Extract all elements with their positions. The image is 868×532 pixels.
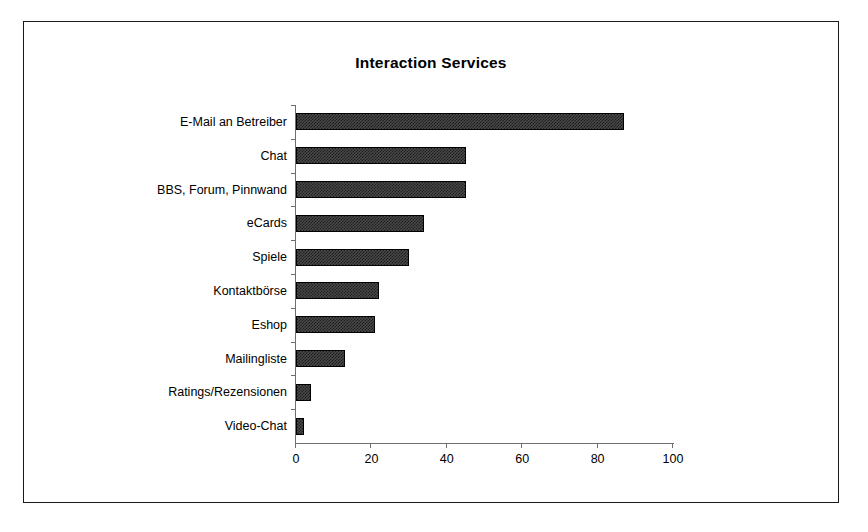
y-axis-tick <box>291 139 296 140</box>
y-axis-tick <box>291 342 296 343</box>
y-axis-label: BBS, Forum, Pinnwand <box>157 184 287 197</box>
x-axis-line <box>295 443 674 444</box>
bar-row: Mailingliste <box>296 342 673 376</box>
x-axis-tick <box>521 443 522 448</box>
y-axis-label: Chat <box>261 150 287 163</box>
y-axis-tick <box>291 308 296 309</box>
x-axis-tick-label: 0 <box>293 452 300 466</box>
bar-row: eCards <box>296 206 673 240</box>
bar-bbs-forum-pinnwand <box>296 181 466 198</box>
bar-row: Spiele <box>296 240 673 274</box>
chart-frame: Interaction Services E-Mail an Betreiber… <box>23 21 839 503</box>
x-axis-tick-label: 80 <box>591 452 605 466</box>
bar-spiele <box>296 249 409 266</box>
bar-mailingliste <box>296 350 345 367</box>
bar-row: Chat <box>296 139 673 173</box>
x-axis-tick-label: 20 <box>364 452 378 466</box>
y-axis-label: Ratings/Rezensionen <box>168 386 287 399</box>
y-axis-tick <box>291 409 296 410</box>
bar-row: Kontaktbörse <box>296 274 673 308</box>
chart-title: Interaction Services <box>24 54 838 72</box>
bar-ecards <box>296 215 424 232</box>
x-axis-tick <box>295 443 296 448</box>
y-axis-tick <box>291 206 296 207</box>
bar-video-chat <box>296 418 304 435</box>
y-axis-label: Eshop <box>252 319 287 332</box>
x-axis-tick-label: 60 <box>515 452 529 466</box>
y-axis-label: Video-Chat <box>225 420 287 433</box>
y-axis-label: Kontaktbörse <box>213 285 287 298</box>
bar-kontaktboerse <box>296 282 379 299</box>
y-axis-label: Spiele <box>252 251 287 264</box>
bar-row: Ratings/Rezensionen <box>296 375 673 409</box>
y-axis-tick <box>291 105 296 106</box>
y-axis-tick <box>291 240 296 241</box>
y-axis-tick <box>291 375 296 376</box>
y-axis-label: E-Mail an Betreiber <box>180 116 287 129</box>
bar-ratings-rezensionen <box>296 384 311 401</box>
x-axis-tick-label: 40 <box>440 452 454 466</box>
bar-e-mail-an-betreiber <box>296 113 624 130</box>
bar-row: BBS, Forum, Pinnwand <box>296 173 673 207</box>
bar-eshop <box>296 316 375 333</box>
y-axis-label: Mailingliste <box>225 353 287 366</box>
bar-row: Eshop <box>296 308 673 342</box>
x-axis-tick <box>672 443 673 448</box>
y-axis-label: eCards <box>247 217 287 230</box>
y-axis-tick <box>291 173 296 174</box>
bar-row: E-Mail an Betreiber <box>296 105 673 139</box>
bar-chat <box>296 147 466 164</box>
plot-area: E-Mail an Betreiber Chat BBS, Forum, Pin… <box>296 105 673 443</box>
y-axis-tick <box>291 274 296 275</box>
x-axis-tick-label: 100 <box>663 452 684 466</box>
x-axis-tick <box>597 443 598 448</box>
x-axis-tick <box>446 443 447 448</box>
x-axis-tick <box>370 443 371 448</box>
bar-row: Video-Chat <box>296 409 673 443</box>
